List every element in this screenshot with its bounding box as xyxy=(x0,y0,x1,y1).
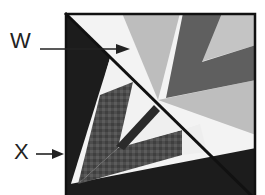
arrow-x xyxy=(36,149,64,159)
quilt-block-diagram xyxy=(0,0,265,195)
